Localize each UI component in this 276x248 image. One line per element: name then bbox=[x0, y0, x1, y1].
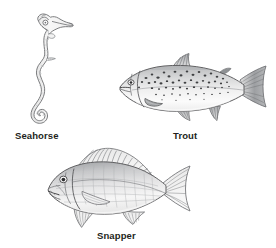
snapper-anal-fin bbox=[122, 211, 145, 225]
seahorse-drawing bbox=[16, 8, 80, 128]
seahorse-pectoral-fin bbox=[48, 34, 55, 39]
snapper-drawing bbox=[38, 146, 198, 230]
snapper-pupil bbox=[62, 178, 66, 182]
seahorse-illustration bbox=[16, 8, 80, 128]
snapper-illustration bbox=[38, 146, 198, 230]
trout-pupil bbox=[130, 81, 133, 84]
fish-illustration-plate: Seahorse bbox=[0, 0, 276, 248]
caption-snapper: Snapper bbox=[97, 230, 136, 241]
trout-drawing bbox=[106, 52, 274, 126]
seahorse-pupil bbox=[45, 22, 47, 24]
caption-trout: Trout bbox=[173, 130, 197, 141]
trout-illustration bbox=[106, 52, 274, 126]
caption-seahorse: Seahorse bbox=[15, 130, 59, 141]
seahorse-body-shape bbox=[31, 14, 73, 123]
